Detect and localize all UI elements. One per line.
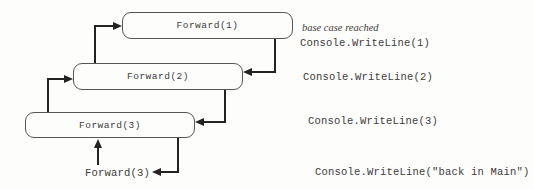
annotation-base-case-reached: base case reached [302,22,379,33]
call-arrow-3to2-vertical [47,78,49,112]
recursion-diagram: Forward(1) Forward(2) Forward(3) Forward… [0,0,534,189]
annotation-writeline-3: Console.WriteLine(3) [308,115,438,127]
call-arrow-2to1-arrowhead-icon [113,22,122,30]
annotation-writeline-1: Console.WriteLine(1) [300,37,430,49]
call-arrow-main-to-3-arrowhead-icon [94,139,102,148]
frame-label-forward-3: Forward(3) [79,120,141,131]
annotation-writeline-back-in-main: Console.WriteLine("back in Main") [315,166,530,178]
return-arrow-3-to-main-horizontal [161,171,179,173]
frame-label-forward-2: Forward(2) [127,71,189,82]
return-arrow-1to2-vertical [274,39,276,73]
annotation-writeline-2: Console.WriteLine(2) [303,71,433,83]
call-arrow-2to1-vertical [94,26,96,63]
frame-box-forward-3: Forward(3) [25,112,195,138]
return-arrow-2to3-vertical [224,90,226,123]
call-arrow-3to2-horizontal [47,78,65,80]
frame-label-forward-1: Forward(1) [176,20,238,31]
return-arrow-3-to-main-vertical [177,138,179,173]
return-arrow-1to2-arrowhead-icon [243,68,252,76]
initial-call-label: Forward(3) [85,167,150,179]
return-arrow-2to3-arrowhead-icon [195,118,204,126]
frame-box-forward-1: Forward(1) [122,12,293,39]
return-arrow-3-to-main-arrowhead-icon [152,168,161,176]
return-arrow-1to2-horizontal [251,71,276,73]
frame-box-forward-2: Forward(2) [73,63,243,90]
return-arrow-2to3-horizontal [203,121,226,123]
call-arrow-3to2-arrowhead-icon [64,75,73,83]
call-arrow-2to1-horizontal [94,25,114,27]
call-arrow-main-to-3-vertical [97,146,99,165]
